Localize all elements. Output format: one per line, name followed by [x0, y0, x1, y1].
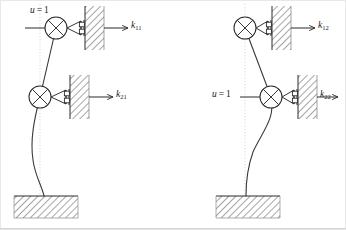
k-subscript: 11	[135, 24, 141, 31]
wall-lower	[298, 75, 317, 119]
panel-right	[216, 4, 338, 218]
reaction-label-k11: k11	[131, 21, 142, 31]
deflected-column	[245, 28, 272, 196]
u-value: 1	[226, 89, 231, 99]
u-value: 1	[44, 5, 49, 15]
k-subscript: 12	[322, 24, 329, 31]
figure-canvas: u = 1 k11 k21 u = 1 k12 k22	[0, 0, 346, 230]
k-subscript: 22	[324, 93, 331, 100]
deflected-column	[32, 28, 56, 196]
wall-upper	[272, 6, 291, 50]
unit-displacement-label-right: u = 1	[212, 90, 231, 100]
reaction-label-k22: k22	[320, 90, 331, 100]
wall-lower	[70, 75, 89, 119]
panel-left	[14, 4, 128, 218]
foundation-block	[14, 196, 78, 218]
wall-upper	[85, 6, 104, 50]
foundation-block	[216, 196, 280, 218]
k-subscript: 21	[120, 93, 127, 100]
equals-symbol: =	[217, 89, 226, 99]
unit-displacement-label-left: u = 1	[30, 6, 49, 16]
reaction-label-k21: k21	[116, 90, 127, 100]
equals-symbol: =	[35, 5, 44, 15]
reaction-label-k12: k12	[318, 21, 329, 31]
structural-diagram	[0, 0, 346, 230]
